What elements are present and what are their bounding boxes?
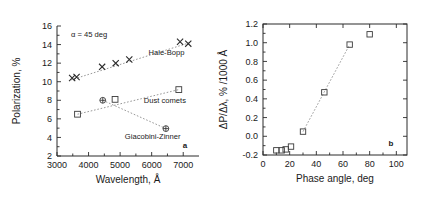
panel-b-frame: [263, 24, 407, 155]
x-tick-label: 60: [338, 159, 348, 169]
panel-a-annotation: α = 45 deg: [71, 30, 107, 39]
data-point: [126, 56, 132, 62]
data-point: [99, 64, 105, 70]
y-tick-label: 2: [47, 151, 52, 161]
panel-b-label: b: [389, 139, 394, 148]
x-tick-label: 3000: [47, 160, 67, 170]
marker-x-icon: [126, 56, 132, 62]
data-point: [113, 60, 119, 66]
y-tick-label: 14: [42, 40, 52, 50]
y-tick-label: -0.2: [242, 150, 258, 160]
y-tick-label: 0.0: [245, 131, 258, 141]
figure-container: 30004000500060007000246810121416Waveleng…: [0, 0, 422, 211]
y-tick-label: 0.4: [245, 94, 258, 104]
y-tick-label: 0.8: [245, 57, 258, 67]
y-tick-label: 10: [42, 77, 52, 87]
x-tick-label: 0: [260, 159, 265, 169]
y-tick-label: 0.6: [245, 75, 258, 85]
panel-a: 30004000500060007000246810121416Waveleng…: [0, 0, 211, 211]
y-tick-label: 6: [47, 114, 52, 124]
y-tick-label: 12: [42, 58, 52, 68]
marker-square-icon: [112, 96, 118, 102]
panel-b-plot: 020406080100-0.20.00.20.40.60.81.01.2Pha…: [211, 0, 422, 211]
y-tick-label: 4: [47, 133, 52, 143]
marker-x-icon: [99, 64, 105, 70]
marker-square-icon: [367, 32, 372, 37]
x-tick-label: 6000: [142, 160, 162, 170]
x-tick-label: 4000: [79, 160, 99, 170]
data-point: [69, 75, 75, 81]
panel-b: 020406080100-0.20.00.20.40.60.81.01.2Pha…: [211, 0, 422, 211]
marker-x-icon: [113, 60, 119, 66]
panel-b-ylabel: ΔP/Δλ, % /1000 Å: [217, 49, 229, 129]
x-tick-label: 40: [311, 159, 321, 169]
data-point: [176, 87, 182, 93]
marker-square-icon: [176, 87, 182, 93]
y-tick-label: 1.0: [245, 38, 258, 48]
panel-a-plot: 30004000500060007000246810121416Waveleng…: [0, 0, 211, 211]
marker-square-icon: [288, 144, 293, 149]
x-tick-label: 7000: [173, 160, 193, 170]
x-tick-label: 5000: [110, 160, 130, 170]
x-tick-label: 100: [389, 159, 404, 169]
marker-x-icon: [177, 39, 183, 45]
y-tick-label: 0.2: [245, 113, 258, 123]
data-point: [163, 126, 169, 132]
fit-line-gradient: [303, 45, 350, 132]
y-tick-label: 1.2: [245, 19, 258, 29]
panel-a-xlabel: Wavelength, Å: [96, 173, 161, 185]
y-tick-label: 16: [42, 21, 52, 31]
data-point: [112, 96, 118, 102]
panel-b-xlabel: Phase angle, deg: [296, 173, 374, 184]
series-label-hale-bopp: Hale-Bopp: [149, 48, 185, 57]
x-tick-label: 80: [365, 159, 375, 169]
y-tick-label: 8: [47, 95, 52, 105]
data-point: [100, 97, 106, 103]
marker-square-icon: [274, 148, 279, 153]
panel-a-ylabel: Polarization, %: [11, 58, 22, 125]
x-tick-label: 20: [285, 159, 295, 169]
data-point: [177, 39, 183, 45]
marker-x-icon: [69, 75, 75, 81]
series-label-dust-comets: Dust comets: [144, 96, 186, 105]
series-label-giacobini-zinner: Giacobini-Zinner: [125, 132, 181, 141]
panel-a-label: a: [183, 141, 188, 150]
